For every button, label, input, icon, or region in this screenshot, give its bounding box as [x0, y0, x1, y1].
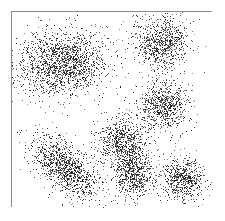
plot-border — [11, 11, 212, 207]
scatter-plot-figure — [0, 0, 225, 221]
scatter-points-layer — [12, 12, 213, 208]
